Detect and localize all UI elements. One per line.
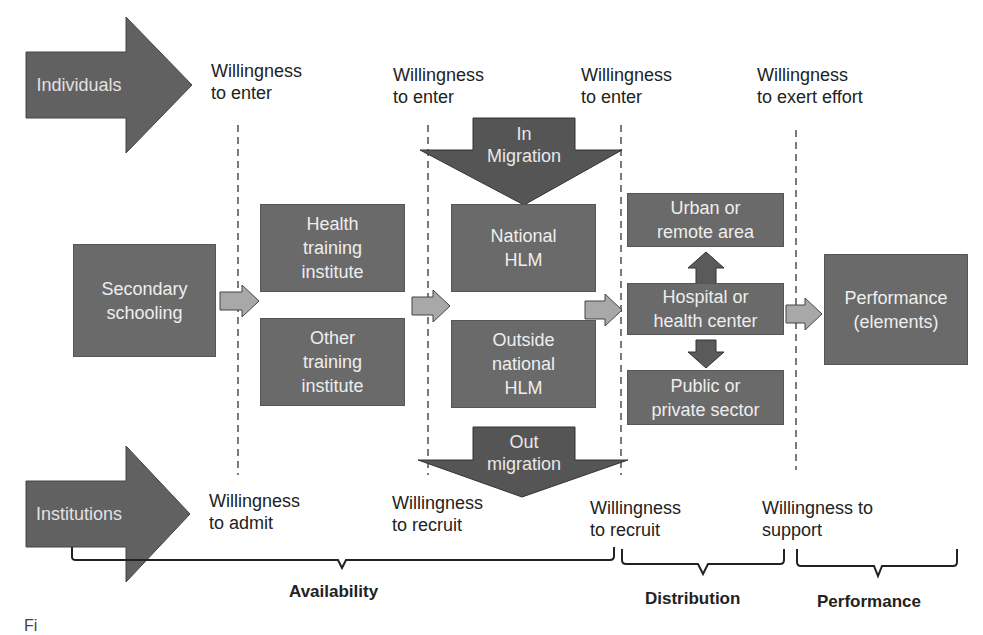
outside-national-hlm-box: Outside national HLM [451, 320, 596, 408]
willingness-label-bottom-4: Willingness to support [762, 497, 873, 541]
arrow-right-icon [412, 290, 450, 322]
phase-performance: Performance [817, 592, 921, 612]
distribution-brace [622, 549, 784, 574]
health-training-institute-box: Health training institute [260, 204, 405, 292]
figure-caption-fragment: Fi [24, 617, 37, 635]
willingness-label-top-3: Willingness to enter [581, 64, 672, 108]
performance-brace [797, 549, 957, 576]
arrow-up-icon [688, 252, 724, 284]
willingness-label-bottom-2: Willingness to recruit [392, 492, 483, 536]
urban-remote-area-box: Urban or remote area [627, 193, 784, 247]
willingness-label-bottom-3: Willingness to recruit [590, 497, 681, 541]
in-migration-label: In Migration [474, 123, 574, 167]
hospital-health-center-box: Hospital or health center [627, 283, 784, 335]
willingness-label-top-2: Willingness to enter [393, 64, 484, 108]
willingness-label-bottom-1: Willingness to admit [209, 490, 300, 534]
phase-availability: Availability [289, 582, 378, 602]
other-training-institute-box: Other training institute [260, 318, 405, 406]
willingness-label-top-1: Willingness to enter [211, 60, 302, 104]
phase-distribution: Distribution [645, 589, 740, 609]
arrow-right-icon [786, 298, 822, 330]
arrow-right-icon [220, 285, 259, 317]
individuals-label: Individuals [34, 74, 124, 96]
public-private-sector-box: Public or private sector [627, 370, 784, 425]
arrow-down-icon [688, 340, 724, 368]
willingness-label-top-4: Willingness to exert effort [757, 64, 863, 108]
secondary-schooling-box: Secondary schooling [73, 244, 216, 357]
out-migration-label: Out migration [474, 431, 574, 475]
performance-elements-box: Performance (elements) [824, 254, 968, 365]
national-hlm-box: National HLM [451, 204, 596, 292]
institutions-label: Institutions [34, 503, 124, 525]
